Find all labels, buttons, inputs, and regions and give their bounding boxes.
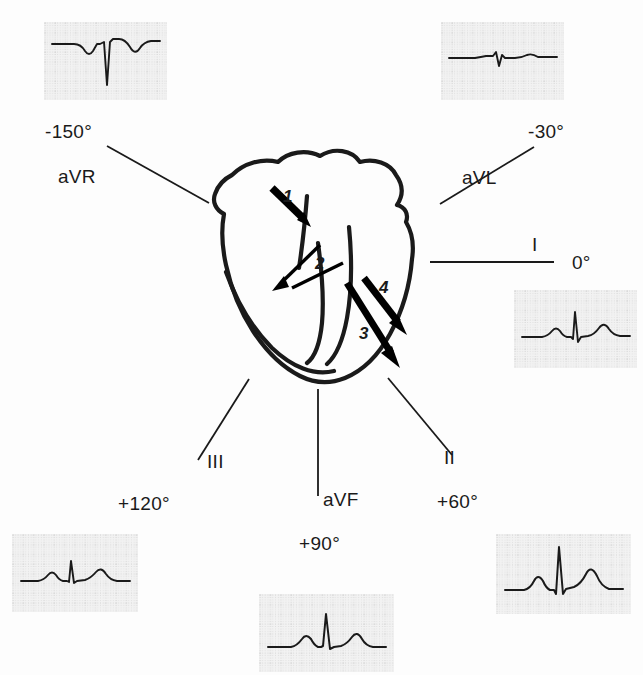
angle-label-avl: -30°: [528, 122, 564, 141]
angle-label-i: 0°: [572, 253, 591, 272]
lead-label-i: I: [532, 235, 538, 254]
lead-label-iii: III: [207, 452, 224, 471]
heart-outline: [214, 151, 413, 382]
ecg-tracing-avf: [259, 594, 394, 672]
axis-line-lead-iii: [198, 379, 249, 460]
vector-label-3: 3: [359, 325, 368, 342]
ecg-box-lead-ii: [496, 534, 631, 614]
ecg-tracing-avr: [44, 22, 167, 100]
angle-label-avr: -150°: [45, 122, 92, 141]
vector-label-2: 2: [315, 255, 324, 272]
ecg-tracing-lead-ii: [496, 534, 631, 614]
ecg-box-avr: [44, 22, 167, 100]
ecg-tracing-avl: [441, 22, 564, 100]
angle-label-ii: +60°: [437, 492, 478, 511]
angle-label-avf: +90°: [299, 534, 340, 553]
ecg-box-lead-iii: [12, 534, 138, 612]
ecg-box-avl: [441, 22, 564, 100]
cardiac-axis-figure: 1 2 3 4 -150° aVR -30° aVL I 0° II +60° …: [0, 0, 643, 675]
vector-arrow-2: [272, 245, 343, 291]
lead-label-avl: aVL: [462, 168, 497, 187]
lead-label-ii: II: [444, 448, 455, 467]
vector-label-1: 1: [283, 188, 292, 205]
axis-line-avr: [107, 146, 209, 203]
ecg-box-lead-i: [514, 290, 637, 368]
vector-arrow-3: [347, 283, 400, 368]
ecg-tracing-lead-i: [514, 290, 637, 368]
ecg-tracing-lead-iii: [12, 534, 138, 612]
lead-label-avr: aVR: [58, 167, 96, 186]
axis-line-lead-ii: [388, 378, 452, 455]
angle-label-iii: +120°: [118, 494, 170, 513]
ecg-box-avf: [259, 594, 394, 672]
lead-label-avf: aVF: [323, 490, 359, 509]
vector-label-4: 4: [379, 279, 388, 296]
